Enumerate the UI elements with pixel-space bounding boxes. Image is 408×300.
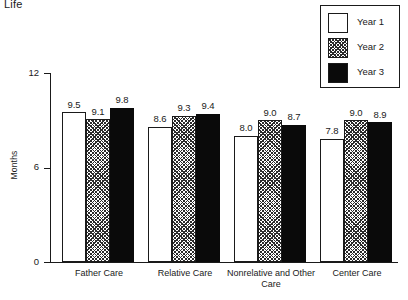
bar-value-year1-center-care: 7.8 (317, 125, 347, 136)
y-tick-mark-6 (44, 168, 50, 169)
bar-value-year3-relative-care: 9.4 (193, 100, 223, 111)
bar-year3-nonrelative-other-care[interactable] (282, 125, 306, 262)
y-tick-mark-12 (44, 73, 50, 74)
bar-chart: Life Year 1 Year 2 Year 3 Months 12 6 0 … (0, 0, 408, 300)
bar-year2-relative-care[interactable] (172, 116, 196, 262)
white-square-icon (328, 13, 348, 33)
bar-year3-relative-care[interactable] (196, 114, 220, 262)
x-category-label-center-care: Center Care (302, 268, 408, 279)
y-tick-label-12: 12 (9, 67, 39, 78)
bar-year3-center-care[interactable] (368, 122, 392, 262)
bar-year1-father-care[interactable] (62, 112, 86, 262)
bar-year1-relative-care[interactable] (148, 127, 172, 262)
bar-year2-father-care[interactable] (86, 119, 110, 262)
bar-value-year1-relative-care: 8.6 (145, 113, 175, 124)
bar-year2-center-care[interactable] (344, 120, 368, 262)
bar-group-nonrelative-other-care (234, 73, 308, 262)
bar-value-year3-nonrelative-other-care: 8.7 (279, 111, 309, 122)
bar-group-center-care (320, 73, 394, 262)
legend-label-year-2: Year 2 (357, 41, 384, 52)
bar-year3-father-care[interactable] (110, 108, 134, 262)
legend-label-year-1: Year 1 (357, 16, 384, 27)
bar-year2-nonrelative-other-care[interactable] (258, 120, 282, 262)
legend-entry-year-2: Year 2 (328, 38, 396, 60)
hatched-square-icon (328, 38, 348, 58)
bar-value-year3-center-care: 8.9 (365, 109, 395, 120)
legend-entry-year-1: Year 1 (328, 13, 396, 35)
bar-value-year1-nonrelative-other-care: 8.0 (231, 122, 261, 133)
bar-value-year2-father-care: 9.1 (83, 106, 113, 117)
bar-year1-center-care[interactable] (320, 139, 344, 262)
bar-year1-nonrelative-other-care[interactable] (234, 136, 258, 262)
y-tick-label-6: 6 (9, 161, 39, 172)
y-tick-mark-0 (44, 262, 50, 263)
y-tick-label-0: 0 (9, 256, 39, 267)
chart-caption: Life (4, 0, 23, 10)
bar-value-year3-father-care: 9.8 (107, 94, 137, 105)
